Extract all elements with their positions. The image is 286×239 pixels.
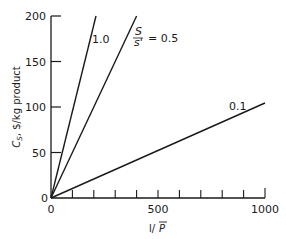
series-label-1-0: 1.0 bbox=[92, 33, 110, 46]
y-tick-label: 200 bbox=[25, 10, 46, 23]
x-tick-label: 0 bbox=[48, 203, 55, 216]
y-tick-label: 100 bbox=[25, 101, 46, 114]
svg-text:l/: l/ bbox=[149, 223, 156, 234]
y-tick-label: 150 bbox=[25, 56, 46, 69]
x-ticks bbox=[72, 188, 265, 198]
y-axis-title: CS, $/kg product bbox=[11, 66, 24, 147]
y-ticks bbox=[51, 16, 61, 153]
x-axis-title: l/ P bbox=[149, 222, 167, 234]
x-tick-label: 1000 bbox=[251, 203, 279, 216]
series-line-0-1 bbox=[51, 103, 265, 198]
series-label-0-1: 0.1 bbox=[229, 100, 247, 113]
chart: 200 150 100 50 0 0 500 1000 l/ P CS, $/k… bbox=[0, 0, 286, 239]
svg-text:P: P bbox=[159, 223, 166, 234]
svg-text:= 0.5: = 0.5 bbox=[148, 32, 178, 45]
series-label-0-5: S s' = 0.5 bbox=[133, 25, 178, 49]
svg-text:CS, $/kg product: CS, $/kg product bbox=[11, 66, 24, 147]
svg-text:s': s' bbox=[134, 36, 143, 49]
x-tick-label: 500 bbox=[148, 203, 169, 216]
y-tick-label: 50 bbox=[32, 147, 46, 160]
